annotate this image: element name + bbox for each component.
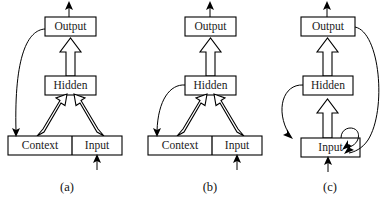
panel-a-output-label: Output bbox=[55, 20, 88, 33]
panel-a-context-to-hidden-arrow bbox=[37, 94, 67, 136]
figure-container: Output Hidden Context Input bbox=[0, 0, 392, 205]
network-architecture-diagram: Output Hidden Context Input bbox=[0, 0, 392, 205]
panel-c: Output Hidden Input bbox=[282, 1, 379, 172]
panel-c-output-exit-arrow bbox=[323, 1, 331, 17]
panel-a-output-to-context-curve bbox=[12, 29, 45, 137]
panel-a-hidden-label: Hidden bbox=[54, 79, 88, 91]
panel-c-input-label: Input bbox=[318, 141, 343, 154]
panel-a-external-input-arrow bbox=[93, 154, 101, 170]
panel-caption-c: (c) bbox=[323, 180, 337, 194]
panel-b-hidden-label: Hidden bbox=[194, 79, 228, 91]
panel-c-input-to-hidden-arrow bbox=[317, 99, 338, 138]
panel-c-hidden-to-input-curve bbox=[282, 85, 303, 139]
panel-c-hidden-label: Hidden bbox=[311, 79, 345, 91]
panel-a-input-to-hidden-arrow bbox=[74, 94, 104, 136]
panel-b-input-to-hidden-arrow bbox=[214, 94, 244, 136]
panel-caption-a: (a) bbox=[60, 180, 74, 194]
panel-a: Output Hidden Context Input bbox=[8, 1, 122, 170]
panel-c-hidden-to-output-arrow bbox=[317, 38, 338, 76]
panel-b-output-exit-arrow bbox=[206, 1, 214, 17]
panel-a-input-label: Input bbox=[85, 139, 110, 152]
panel-b-input-label: Input bbox=[225, 139, 250, 152]
panel-a-context-label: Context bbox=[22, 139, 59, 151]
panel-b: Output Hidden Context Input bbox=[148, 1, 262, 170]
panel-c-output-label: Output bbox=[312, 20, 345, 33]
panel-b-hidden-to-output-arrow bbox=[200, 38, 221, 76]
panel-a-hidden-to-output-arrow bbox=[60, 38, 81, 76]
panel-b-output-label: Output bbox=[195, 20, 228, 33]
panel-b-hidden-to-context-curve bbox=[153, 85, 185, 137]
panel-b-external-input-arrow bbox=[233, 154, 241, 170]
panel-caption-b: (b) bbox=[203, 180, 218, 194]
panel-c-external-input-arrow bbox=[324, 156, 332, 172]
panel-b-context-to-hidden-arrow bbox=[177, 94, 207, 136]
panel-a-output-exit-arrow bbox=[65, 1, 73, 17]
panel-b-context-label: Context bbox=[162, 139, 199, 151]
